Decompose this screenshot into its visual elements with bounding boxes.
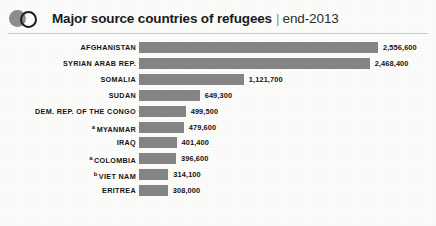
bar-value-label: 308,000 — [173, 185, 200, 196]
figure-title: Major source countries of refugees — [52, 11, 272, 26]
bar-category-label: IRAQ — [117, 137, 136, 148]
bar — [139, 58, 370, 69]
chart-row: aCOLOMBIA396,600 — [0, 153, 436, 164]
bar-value-label: 2,468,400 — [375, 58, 409, 69]
bar-category-label: SYRIAN ARAB REP. — [63, 58, 136, 69]
bar-category-label: DEM. REP. OF THE CONGO — [35, 106, 136, 117]
bar-value-label: 396,600 — [181, 153, 208, 164]
figure-panel: Major source countries of refugees|end-2… — [0, 0, 436, 226]
outline-circle-icon — [20, 11, 37, 28]
bar — [139, 90, 200, 101]
chart-row: DEM. REP. OF THE CONGO499,500 — [0, 106, 436, 117]
bar-category-label: aCOLOMBIA — [89, 153, 136, 164]
bar — [139, 42, 378, 53]
figure-header: Major source countries of refugees|end-2… — [0, 0, 436, 34]
footnote-marker: a — [92, 124, 95, 130]
bar-category-label: aMYANMAR — [92, 122, 136, 133]
bar — [139, 185, 168, 196]
chart-row: IRAQ401,400 — [0, 137, 436, 148]
bar-category-label: SUDAN — [109, 90, 136, 101]
bar-category-label: ERITREA — [102, 185, 136, 196]
figure-subtitle: end-2013 — [282, 11, 338, 26]
bar — [139, 122, 184, 133]
bar-category-text: DEM. REP. OF THE CONGO — [35, 107, 136, 116]
unhcr-logo — [9, 10, 49, 27]
bar-category-text: VIET NAM — [99, 173, 136, 182]
bar-value-label: 479,600 — [189, 122, 216, 133]
chart-row: ERITREA308,000 — [0, 185, 436, 196]
bar-value-label: 401,400 — [182, 137, 209, 148]
chart-row: SOMALIA1,121,700 — [0, 74, 436, 85]
bar-value-label: 499,500 — [191, 106, 218, 117]
bar — [139, 137, 177, 148]
footnote-marker: a — [89, 155, 92, 161]
bar — [139, 169, 168, 180]
bar-category-text: SUDAN — [109, 91, 136, 100]
bar-category-text: MYANMAR — [97, 125, 136, 134]
chart-row: AFGHANISTAN2,556,600 — [0, 42, 436, 53]
bar-value-label: 314,100 — [173, 169, 200, 180]
chart-row: SYRIAN ARAB REP.2,468,400 — [0, 58, 436, 69]
bar-value-label: 1,121,700 — [249, 74, 283, 85]
bar-chart: AFGHANISTAN2,556,600SYRIAN ARAB REP.2,46… — [0, 40, 436, 220]
bar-category-text: IRAQ — [117, 138, 136, 147]
bar — [139, 106, 186, 117]
bar — [139, 74, 244, 85]
bar-category-text: AFGHANISTAN — [80, 43, 136, 52]
bar-value-label: 649,300 — [205, 90, 232, 101]
title-separator: | — [276, 11, 280, 26]
footnote-marker: b — [94, 171, 98, 177]
chart-row: SUDAN649,300 — [0, 90, 436, 101]
bar-category-text: COLOMBIA — [94, 157, 136, 166]
bar-category-text: SYRIAN ARAB REP. — [63, 59, 136, 68]
figure-title-group: Major source countries of refugees|end-2… — [52, 9, 339, 28]
bar-category-label: AFGHANISTAN — [80, 42, 136, 53]
header-divider — [8, 33, 428, 34]
chart-row: aMYANMAR479,600 — [0, 122, 436, 133]
bar-value-label: 2,556,600 — [383, 42, 417, 53]
bar-category-label: bVIET NAM — [94, 169, 136, 180]
chart-row: bVIET NAM314,100 — [0, 169, 436, 180]
bar-category-text: SOMALIA — [100, 75, 136, 84]
bar-category-text: ERITREA — [102, 186, 136, 195]
bar-category-label: SOMALIA — [100, 74, 136, 85]
bar — [139, 153, 176, 164]
